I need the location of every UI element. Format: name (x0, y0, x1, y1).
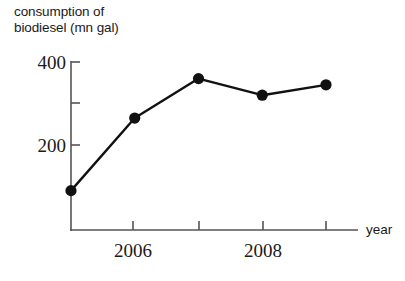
data-series-biodiesel-consumption (65, 73, 331, 196)
data-point-2008 (257, 90, 268, 101)
series-line (71, 79, 326, 191)
data-point-2009 (320, 79, 331, 90)
data-point-2006 (129, 112, 140, 123)
data-point-2007 (193, 73, 204, 84)
y-axis (71, 61, 80, 231)
chart-plot-area (0, 0, 405, 281)
x-axis (70, 221, 358, 230)
data-point-2005 (65, 185, 76, 196)
chart-figure: consumption of biodiesel (mn gal) 400 20… (0, 0, 405, 281)
